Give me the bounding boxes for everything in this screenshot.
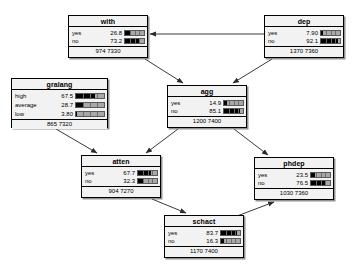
bar-gridline [326,39,327,43]
node-schact[interactable]: schactyes83.7no16.31170 7400 [164,215,244,258]
edge-schact-to-phdep [237,202,274,216]
node-footer-atten: 904 7270 [82,187,160,197]
state-row[interactable]: yes83.7 [165,229,243,237]
state-bar [75,93,105,99]
bar-gridline [325,181,326,185]
bar-gridline [235,239,236,243]
node-title-atten: atten [82,156,160,167]
state-bar-fill [76,112,77,116]
state-value: 85.1 [199,107,223,115]
node-with[interactable]: withyes26.8no73.2974 7330 [68,15,148,58]
state-value: 23.5 [286,171,310,179]
edge-gralang-to-atten [56,129,97,153]
bar-gridline [83,94,84,98]
node-title-dep: dep [265,16,343,27]
bar-gridline [234,109,235,113]
node-gralang[interactable]: gralanghigh67.5average28.7low3.80865 732… [11,78,108,128]
state-value: 3.80 [49,110,75,118]
state-label: yes [255,171,286,179]
state-row[interactable]: no16.3 [165,237,243,245]
state-row[interactable]: no73.2 [69,37,147,45]
state-bar [310,172,331,178]
bar-gridline [238,101,239,105]
state-row[interactable]: average28.7 [12,100,107,109]
state-row[interactable]: high67.5 [12,91,107,100]
state-row[interactable]: low3.80 [12,109,107,118]
state-row[interactable]: yes67.7 [82,169,160,177]
bar-gridline [130,31,131,35]
bar-gridline [83,103,84,107]
state-bar-fill [138,171,151,175]
state-row[interactable]: no76.5 [255,179,333,187]
node-states-dep: yes7.90no92.1 [265,27,343,47]
state-label: yes [265,29,296,37]
bar-gridline [90,112,91,116]
node-title-gralang: gralang [12,79,107,90]
state-label: high [12,92,49,100]
state-label: yes [165,229,196,237]
node-footer-gralang: 865 7320 [12,120,107,129]
state-row[interactable]: yes14.9 [168,99,246,107]
bar-gridline [231,231,232,235]
state-row[interactable]: no85.1 [168,107,246,115]
state-row[interactable]: yes26.8 [69,29,147,37]
state-bar [223,100,244,106]
node-atten[interactable]: attenyes67.7no32.3904 7270 [81,155,161,198]
state-label: no [69,37,100,45]
node-states-schact: yes83.7no16.3 [165,227,243,247]
bar-gridline [148,179,149,183]
node-dep[interactable]: depyes7.90no92.11370 7360 [264,15,344,58]
edge-agg-to-atten [146,129,178,153]
bar-gridline [335,31,336,35]
state-label: no [255,179,286,187]
state-value: 67.5 [49,92,75,100]
edge-atten-to-schact [152,199,186,213]
node-agg[interactable]: aggyes14.9no85.11200 7400 [167,85,247,128]
bar-gridline [226,231,227,235]
edge-agg-to-phdep [234,129,268,155]
bar-gridline [234,101,235,105]
bar-gridline [83,112,84,116]
bar-gridline [316,173,317,177]
bar-gridline [148,171,149,175]
bar-gridline [331,31,332,35]
state-value: 14.9 [199,99,223,107]
state-bar [320,38,341,44]
state-label: average [12,101,49,109]
bar-gridline [325,173,326,177]
node-states-agg: yes14.9no85.1 [168,97,246,117]
state-bar [75,102,105,108]
bar-gridline [97,112,98,116]
bar-gridline [321,181,322,185]
state-row[interactable]: yes23.5 [255,171,333,179]
state-label: low [12,110,49,118]
state-bar-fill [224,101,227,105]
state-bar [124,30,145,36]
state-value: 7.90 [296,29,320,37]
node-footer-dep: 1370 7360 [265,47,343,57]
state-row[interactable]: yes7.90 [265,29,343,37]
state-value: 83.7 [196,229,220,237]
state-bar-fill [76,94,95,98]
node-states-with: yes26.8no73.2 [69,27,147,47]
state-row[interactable]: no92.1 [265,37,343,45]
state-row[interactable]: no32.3 [82,177,160,185]
state-label: yes [82,169,113,177]
edge-with-to-agg [145,59,183,83]
state-bar [320,30,341,36]
node-title-schact: schact [165,216,243,227]
node-states-gralang: high67.5average28.7low3.80 [12,90,107,120]
state-value: 67.7 [113,169,137,177]
state-bar-fill [321,31,323,35]
node-footer-with: 974 7330 [69,47,147,57]
bar-gridline [139,31,140,35]
state-bar [124,38,145,44]
node-states-atten: yes67.7no32.3 [82,167,160,187]
bar-gridline [143,179,144,183]
state-value: 73.2 [100,37,124,45]
bar-gridline [229,109,230,113]
node-title-phdep: phdep [255,158,333,169]
state-label: no [265,37,296,45]
state-bar [137,178,158,184]
node-phdep[interactable]: phdepyes23.5no76.51030 7360 [254,157,334,200]
